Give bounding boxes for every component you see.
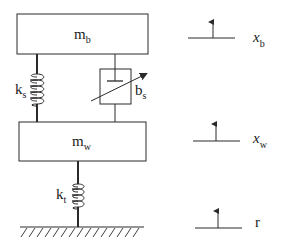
displacement-xw-label: xw [252,130,268,150]
suspension-spring: ks [15,54,44,122]
displacement-xb-label: xb [252,29,265,49]
tire-spring-label: kt [56,186,67,205]
suspension-spring-label: ks [15,81,27,100]
displacement-xw: xw [193,124,268,150]
body-mass: mb [17,14,148,54]
suspension-damper: bs [91,54,147,122]
ground [20,227,144,237]
suspension-damper-label: bs [135,82,147,101]
body-mass-label: mb [74,26,91,45]
quarter-car-diagram: mb ks bs mw kt [0,0,282,249]
displacement-r: r [195,211,260,230]
displacement-xb: xb [188,22,265,49]
wheel-mass-label: mw [72,133,92,152]
spring-icon [72,184,84,209]
ground-hatch-icon [21,228,139,237]
wheel-mass: mw [19,122,146,161]
tire-spring: kt [56,161,84,227]
displacement-r-label: r [255,214,260,230]
